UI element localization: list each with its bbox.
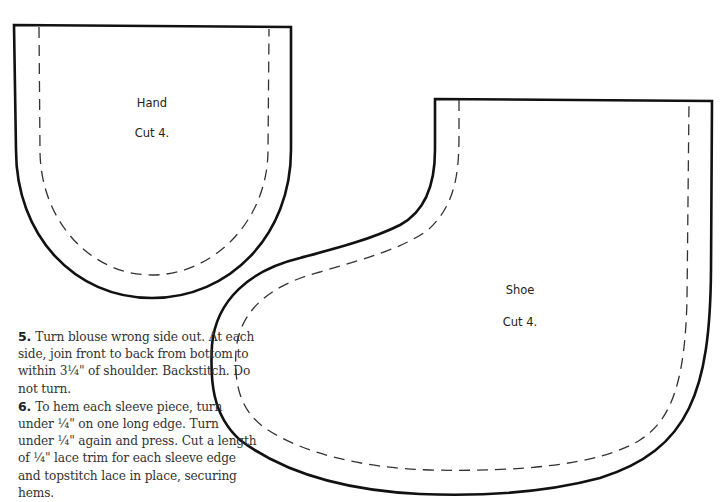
instructions-block: 5.Turn blouse wrong side out. At each si… (18, 328, 258, 502)
step-text: Turn blouse wrong side out. At each side… (18, 330, 254, 396)
hand-label: Hand Cut 4. (112, 96, 192, 140)
instruction-step-5: 5.Turn blouse wrong side out. At each si… (18, 328, 258, 398)
step-number: 5. (18, 329, 31, 344)
hand-cut-instruction: Cut 4. (112, 126, 192, 140)
instruction-step-6: 6.To hem each sleeve piece, turn under ¼… (18, 398, 258, 502)
shoe-label: Shoe Cut 4. (480, 283, 560, 329)
step-text: To hem each sleeve piece, turn under ¼" … (18, 400, 256, 500)
pattern-page: Hand Cut 4. Shoe Cut 4. 5.Turn blouse wr… (0, 0, 728, 502)
hand-piece-name: Hand (112, 96, 192, 110)
shoe-piece-name: Shoe (480, 283, 560, 297)
shoe-cut-instruction: Cut 4. (480, 315, 560, 329)
step-number: 6. (18, 399, 31, 414)
hand-cut-line (14, 25, 291, 298)
hand-pattern-piece (14, 25, 291, 298)
